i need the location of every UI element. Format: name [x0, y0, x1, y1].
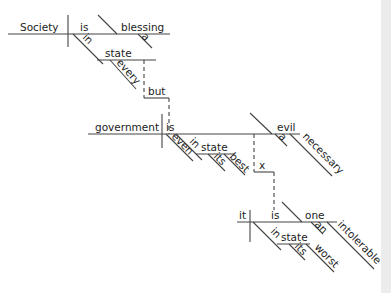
- verb: is: [271, 209, 279, 221]
- verb: is: [166, 121, 174, 133]
- page-edge-strip: [381, 0, 391, 293]
- sentence-diagram: Society is blessing a in state every but…: [0, 0, 391, 293]
- clause-1: Society is blessing a in state every: [8, 15, 170, 89]
- complement-modifier: necessary: [301, 130, 347, 176]
- ellipsis-connector: x: [254, 134, 274, 210]
- clause-2: government is evil a necessary even in s…: [88, 113, 347, 176]
- prep-object-modifier: best: [228, 150, 253, 175]
- ellipsis-marker: x: [259, 159, 265, 171]
- subject: government: [95, 121, 159, 133]
- verb: is: [80, 21, 88, 33]
- complement-divider: [282, 202, 302, 222]
- complement-divider: [98, 15, 117, 34]
- complement-divider: [250, 113, 272, 134]
- complement-modifier: intolerable: [336, 218, 384, 266]
- clause-3: it is one an intolerable in state its wo…: [237, 202, 384, 272]
- prep-object: state: [105, 47, 132, 59]
- prep-object: state: [201, 141, 228, 153]
- complement: blessing: [121, 21, 164, 33]
- subject: Society: [20, 21, 59, 33]
- conjunction: but: [148, 85, 165, 97]
- subject: it: [239, 209, 246, 221]
